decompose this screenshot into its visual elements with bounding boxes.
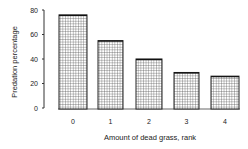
bars: [58, 15, 240, 109]
y-axis: 020406080: [30, 7, 44, 112]
bar-chart: 020406080 01234 Predation percentage Amo…: [0, 0, 248, 149]
x-axis-label: Amount of dead grass, rank: [104, 133, 196, 142]
x-tick-label: 0: [71, 118, 75, 125]
x-tick-label: 4: [223, 118, 227, 125]
y-tick-label: 60: [30, 31, 38, 38]
y-tick-label: 80: [30, 7, 38, 14]
x-tick-label: 3: [185, 118, 189, 125]
bar: [98, 41, 123, 109]
bar: [136, 59, 162, 109]
x-tick-label: 2: [147, 118, 151, 125]
x-axis-tick-labels: 01234: [71, 118, 227, 125]
y-tick-label: 0: [34, 105, 38, 112]
y-tick-label: 40: [30, 56, 38, 63]
bar: [211, 76, 239, 109]
bar: [59, 15, 87, 109]
x-tick-label: 1: [109, 118, 113, 125]
bar: [174, 72, 199, 109]
y-tick-label: 20: [30, 80, 38, 87]
y-axis-label: Predation percentage: [10, 26, 19, 98]
